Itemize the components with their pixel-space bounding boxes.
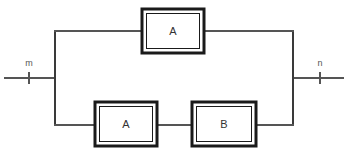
output-port-label: n xyxy=(317,58,322,68)
block-bottom-a[interactable]: A xyxy=(95,102,157,146)
block-top-a-label: A xyxy=(169,25,177,37)
block-bottom-b[interactable]: B xyxy=(192,102,256,146)
block-top-a[interactable]: A xyxy=(142,9,204,53)
block-diagram-canvas: A A B m n xyxy=(0,0,348,158)
block-bottom-b-label: B xyxy=(220,118,227,130)
block-bottom-a-label: A xyxy=(122,118,130,130)
block-diagram-svg: A A B m n xyxy=(0,0,348,158)
input-port-label: m xyxy=(25,58,33,68)
